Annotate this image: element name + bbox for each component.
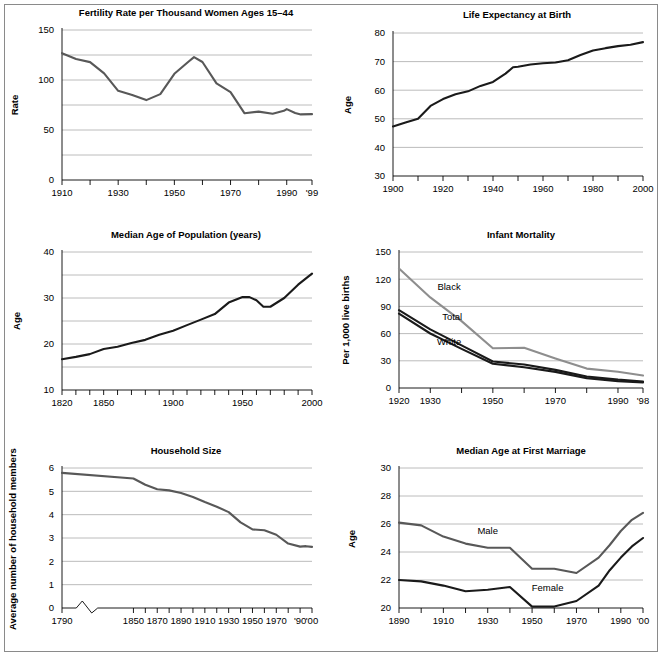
y-tick-label: 60 <box>374 85 385 96</box>
y-tick-label: 6 <box>49 462 54 473</box>
y-tick-label: 5 <box>49 486 54 497</box>
x-tick-label: 1820 <box>51 397 72 408</box>
chart-median-age-population: Median Age of Population (years)10203040… <box>0 220 331 436</box>
chart-title: Median Age of Population (years) <box>111 229 261 240</box>
x-axis-ticks: 19101930195019701990'99 <box>51 180 318 198</box>
y-tick-label: 24 <box>380 546 391 557</box>
x-tick-label: 1950 <box>242 615 263 626</box>
y-tick-label: 10 <box>43 384 54 395</box>
x-tick-label: 1930 <box>477 615 498 626</box>
series-label: Female <box>532 582 564 593</box>
series-label: Black <box>437 281 460 292</box>
y-axis-ticks: 0123456 <box>49 462 54 613</box>
series-line-male <box>399 513 643 573</box>
gridlines <box>62 468 312 585</box>
y-tick-label: 20 <box>380 602 391 613</box>
chart-fertility-rate: Fertility Rate per Thousand Women Ages 1… <box>0 0 331 220</box>
x-tick-label: 2000 <box>632 183 653 194</box>
x-tick-label: 1950 <box>232 397 253 408</box>
series-line-median-age <box>62 274 312 360</box>
x-axis-ticks: 190019201940196019802000 <box>382 176 653 194</box>
gridlines <box>399 468 643 580</box>
x-tick-label: 1950 <box>522 615 543 626</box>
y-axis-label: Rate <box>9 95 20 116</box>
y-tick-label: 30 <box>380 462 391 473</box>
gridlines <box>393 33 643 147</box>
panel-life-expectancy: Life Expectancy at Birth3040506070801900… <box>331 0 662 220</box>
series-label: Male <box>477 525 498 536</box>
y-tick-label: 120 <box>375 274 391 285</box>
y-tick-label: 1 <box>49 579 54 590</box>
y-axis-label: Age <box>11 312 22 330</box>
x-tick-label: 1850 <box>123 615 144 626</box>
series-group <box>399 269 643 383</box>
x-tick-label: 1900 <box>382 183 403 194</box>
x-tick-label: 1990 <box>610 615 631 626</box>
y-tick-label: 30 <box>380 355 391 366</box>
y-tick-label: 60 <box>380 328 391 339</box>
chart-title: Median Age at First Marriage <box>456 445 586 456</box>
y-axis-ticks: 050100150 <box>38 24 54 185</box>
series-group <box>399 513 643 607</box>
x-tick-label: 1870 <box>147 615 168 626</box>
x-tick-label: 1930 <box>420 395 441 406</box>
chart-grid: Fertility Rate per Thousand Women Ages 1… <box>0 0 662 656</box>
chart-title: Infant Mortality <box>487 229 556 240</box>
x-axis-ticks: 17901850187018901910193019501970'90'00 <box>51 608 318 626</box>
x-tick-label: '00 <box>306 615 318 626</box>
y-tick-label: 0 <box>49 174 54 185</box>
x-tick-label: 1970 <box>545 395 566 406</box>
y-tick-label: 50 <box>374 113 385 124</box>
chart-title: Household Size <box>151 445 222 456</box>
statistics-figure: Fertility Rate per Thousand Women Ages 1… <box>0 0 662 656</box>
x-tick-label: 1920 <box>432 183 453 194</box>
series-group <box>62 473 312 547</box>
x-tick-label: 1920 <box>388 395 409 406</box>
x-tick-label: 1940 <box>482 183 503 194</box>
gridlines <box>62 30 312 155</box>
y-tick-label: 0 <box>386 382 391 393</box>
x-tick-label: 1970 <box>566 615 587 626</box>
chart-median-age-first-marriage: Median Age at First Marriage202224262830… <box>331 436 662 656</box>
y-axis-ticks: 304050607080 <box>374 27 385 181</box>
series-group <box>393 42 643 126</box>
x-tick-label: 1990 <box>276 187 297 198</box>
series-line-black <box>399 269 643 376</box>
x-axis-ticks: 189019101930195019701990'00 <box>388 608 649 626</box>
chart-life-expectancy: Life Expectancy at Birth3040506070801900… <box>331 0 662 220</box>
series-group <box>62 274 312 360</box>
y-tick-label: 80 <box>374 27 385 38</box>
y-tick-label: 4 <box>49 509 54 520</box>
y-tick-label: 40 <box>43 246 54 257</box>
y-axis-ticks: 0306090120150 <box>375 246 391 393</box>
x-tick-label: 1950 <box>482 395 503 406</box>
x-axis-ticks: 19201930195019701990'98 <box>388 388 649 406</box>
series-label: White <box>437 336 461 347</box>
panel-median-age-population: Median Age of Population (years)10203040… <box>0 220 331 436</box>
series-label: Total <box>442 311 462 322</box>
x-tick-label: 1930 <box>108 187 129 198</box>
x-tick-label: 1960 <box>532 183 553 194</box>
y-tick-label: 2 <box>49 556 54 567</box>
panel-household-size: Household Size01234561790185018701890191… <box>0 436 331 656</box>
x-tick-label: 1950 <box>164 187 185 198</box>
series-line-life-expectancy <box>393 42 643 126</box>
y-tick-label: 30 <box>374 170 385 181</box>
y-tick-label: 150 <box>38 24 54 35</box>
y-tick-label: 150 <box>375 246 391 257</box>
y-tick-label: 40 <box>374 142 385 153</box>
x-tick-label: 1790 <box>51 615 72 626</box>
y-axis-label: Per 1,000 live births <box>340 275 351 364</box>
y-tick-label: 3 <box>49 532 54 543</box>
y-tick-label: 70 <box>374 56 385 67</box>
chart-household-size: Household Size01234561790185018701890191… <box>0 436 331 656</box>
x-tick-label: 2000 <box>301 397 322 408</box>
chart-title: Fertility Rate per Thousand Women Ages 1… <box>79 7 294 18</box>
y-tick-label: 20 <box>43 338 54 349</box>
y-tick-label: 22 <box>380 574 391 585</box>
x-tick-label: 1970 <box>220 187 241 198</box>
y-axis-ticks: 202224262830 <box>380 462 391 613</box>
x-tick-label: 1910 <box>433 615 454 626</box>
panel-infant-mortality: Infant Mortality030609012015019201930195… <box>331 220 662 436</box>
x-tick-label: '98 <box>637 395 649 406</box>
